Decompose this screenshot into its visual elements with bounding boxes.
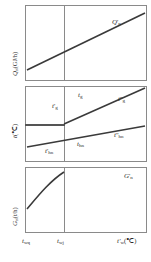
x-tick-t-wj: twj	[57, 237, 64, 245]
flow-rate-curve-label: G'n	[124, 172, 133, 180]
x-tick-t-wq: twq	[22, 237, 30, 245]
panel3-curve-layer	[0, 0, 151, 262]
flow-rate-curve	[27, 172, 64, 209]
x-tick-t-w-prime: t'w(℃)	[117, 237, 136, 245]
figure-root: Qn(GJ/h) Q'n t(℃) t'g tg t''g t'hn thn t…	[0, 0, 151, 262]
